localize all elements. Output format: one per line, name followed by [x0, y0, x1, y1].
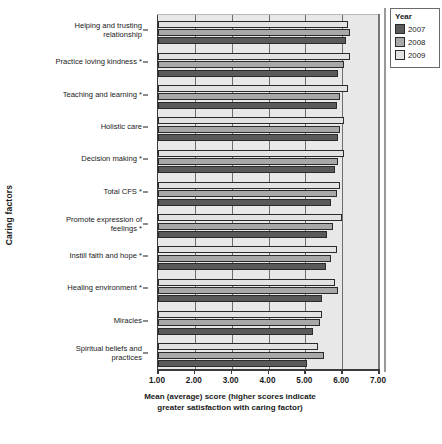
category-tick: [143, 159, 148, 160]
category-label-line: Decision making *: [14, 155, 142, 164]
category-label-line: practices: [14, 353, 142, 362]
x-axis-tick: [231, 369, 233, 374]
x-axis-tick: [341, 369, 343, 374]
bar-2008: [158, 352, 324, 359]
bar-2007: [158, 134, 338, 141]
bar-2007: [158, 295, 322, 302]
category-tick: [143, 352, 148, 353]
bar-2007: [158, 70, 338, 77]
x-axis-title: Mean (average) score (higher scores indi…: [80, 392, 380, 413]
category-label: Instill faith and hope *: [14, 251, 142, 260]
x-axis-tick-label: 6.00: [321, 376, 361, 385]
bar-2009: [158, 150, 344, 157]
bar-2008: [158, 29, 350, 36]
bar-2007: [158, 231, 327, 238]
category-label: Decision making *: [14, 155, 142, 164]
bar-2009: [158, 279, 335, 286]
category-label-line: Helping and trusting: [14, 21, 142, 30]
bar-2008: [158, 190, 337, 197]
x-axis-tick-label: 1.00: [137, 376, 177, 385]
category-tick: [143, 191, 148, 192]
bar-2007: [158, 166, 335, 173]
legend-swatch-icon: [395, 37, 405, 47]
bar-2009: [158, 214, 342, 221]
bar-2007: [158, 37, 346, 44]
bar-2009: [158, 246, 337, 253]
category-label-line: Miracles: [14, 316, 142, 325]
bar-group: [158, 240, 379, 272]
x-axis-tick-label: 5.00: [284, 376, 324, 385]
legend-label: 2009: [408, 51, 425, 60]
legend-entries: 200720082009: [395, 24, 436, 60]
bar-2007: [158, 360, 307, 367]
legend-label: 2008: [408, 38, 425, 47]
bar-group: [158, 175, 379, 207]
bar-group: [158, 143, 379, 175]
category-label-line: Total CFS *: [14, 187, 142, 196]
category-tick: [143, 62, 148, 63]
x-axis-tick-label: 4.00: [248, 376, 288, 385]
category-tick: [143, 126, 148, 127]
plot-outer-border: [384, 8, 386, 372]
legend-swatch-icon: [395, 24, 405, 34]
bar-group: [158, 111, 379, 143]
x-axis-title-line2: greater satisfaction with caring factor): [80, 403, 380, 414]
category-label: Total CFS *: [14, 187, 142, 196]
x-axis-tick: [157, 369, 159, 374]
x-axis-tick: [378, 369, 380, 374]
category-tick: [143, 30, 148, 31]
bar-2009: [158, 53, 350, 60]
category-label: Miracles: [14, 316, 142, 325]
legend: Year 200720082009: [390, 8, 440, 68]
x-axis-tick: [304, 369, 306, 374]
category-label-line: Healing environment *: [14, 284, 142, 293]
category-tick: [143, 288, 148, 289]
category-label-line: relationship: [14, 30, 142, 39]
category-label: Holistic care: [14, 122, 142, 131]
y-axis-title-text: Caring factors: [4, 185, 14, 245]
bar-2007: [158, 199, 331, 206]
bar-2007: [158, 102, 337, 109]
bar-group: [158, 337, 379, 369]
category-label: Spiritual beliefs andpractices: [14, 344, 142, 362]
legend-item-2009[interactable]: 2009: [395, 50, 436, 60]
bar-group: [158, 304, 379, 336]
bar-2009: [158, 85, 348, 92]
bar-2009: [158, 182, 340, 189]
category-label-line: Teaching and learning *: [14, 90, 142, 99]
category-label-line: feelings *: [14, 224, 142, 233]
bar-2007: [158, 263, 326, 270]
bar-group: [158, 208, 379, 240]
bar-2009: [158, 311, 322, 318]
bar-2008: [158, 93, 340, 100]
bar-2008: [158, 287, 338, 294]
category-label-line: Promote expression of: [14, 215, 142, 224]
bar-chart-figure: Caring factors Helping and trustingrelat…: [0, 0, 442, 444]
legend-item-2008[interactable]: 2008: [395, 37, 436, 47]
bar-group: [158, 46, 379, 78]
category-tick: [143, 256, 148, 257]
bar-2008: [158, 158, 338, 165]
category-label: Healing environment *: [14, 284, 142, 293]
x-axis-tick: [268, 369, 270, 374]
legend-item-2007[interactable]: 2007: [395, 24, 436, 34]
category-label: Helping and trustingrelationship: [14, 21, 142, 39]
category-label: Promote expression offeelings *: [14, 215, 142, 233]
plot-area: [157, 14, 379, 369]
legend-title: Year: [395, 12, 436, 21]
bar-2009: [158, 117, 344, 124]
x-axis-tick-label: 7.00: [358, 376, 398, 385]
category-label-line: Spiritual beliefs and: [14, 344, 142, 353]
category-axis-labels: Helping and trustingrelationshipPractice…: [18, 14, 148, 369]
bar-group: [158, 79, 379, 111]
x-axis-tick: [194, 369, 196, 374]
category-tick: [143, 223, 148, 224]
legend-label: 2007: [408, 25, 425, 34]
plot-right-border: [378, 14, 380, 369]
bar-2008: [158, 126, 340, 133]
bar-2008: [158, 255, 331, 262]
category-label: Practice loving kindness *: [14, 58, 142, 67]
bar-2009: [158, 343, 318, 350]
category-label-line: Holistic care: [14, 122, 142, 131]
bar-group: [158, 14, 379, 46]
